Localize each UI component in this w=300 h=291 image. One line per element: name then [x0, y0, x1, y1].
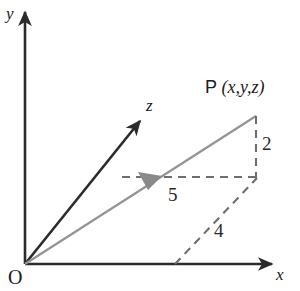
x-axis-label: x: [276, 266, 284, 283]
y-axis-label: y: [6, 5, 14, 22]
point-p-name: P: [205, 77, 217, 97]
x-component-label: 4: [214, 221, 224, 240]
position-vector-OP: [25, 116, 256, 264]
y-component-label: 2: [262, 134, 272, 153]
point-p-label: P (x,y,z): [205, 78, 265, 96]
vector-diagram: y x z O 5 4 2 P (x,y,z): [0, 0, 300, 291]
origin-label: O: [8, 267, 22, 287]
z-component-label: 5: [168, 185, 178, 204]
z-axis: [25, 121, 140, 264]
point-p-coords: (x,y,z): [222, 77, 265, 97]
diagram-canvas: [0, 0, 300, 291]
z-axis-label: z: [146, 97, 153, 114]
component-arrowhead-icon: [138, 172, 162, 190]
